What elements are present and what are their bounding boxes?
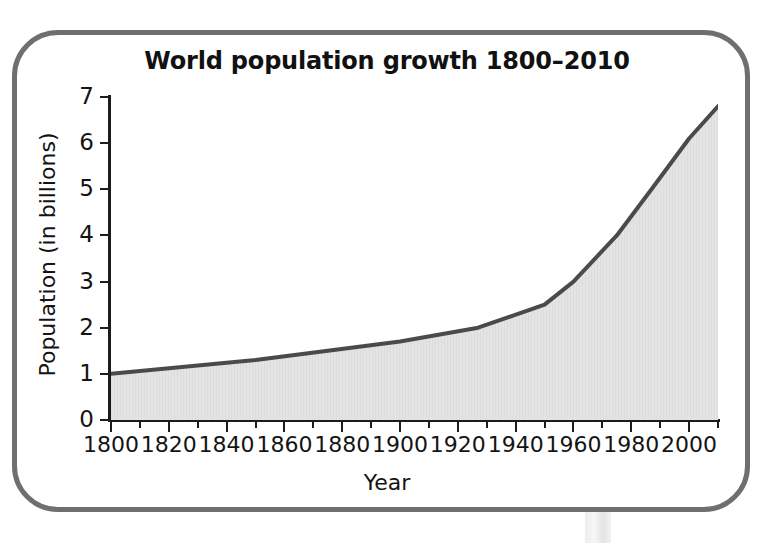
x-axis-tick (226, 421, 228, 432)
x-axis-tick (399, 421, 401, 432)
x-axis-tick (428, 421, 430, 428)
y-axis-tick (100, 188, 109, 190)
x-axis-tick (572, 421, 574, 432)
x-axis-tick-label: 2000 (654, 434, 724, 456)
x-axis-tick (370, 421, 372, 428)
y-axis-tick-label: 6 (60, 131, 94, 154)
y-axis-tick-label: 2 (60, 316, 94, 339)
x-axis-tick (717, 421, 719, 428)
x-axis-title: Year (0, 470, 774, 495)
y-axis-tick (100, 327, 109, 329)
y-axis-tick (100, 419, 109, 421)
y-axis-tick-label: 3 (60, 270, 94, 293)
y-axis-tick (100, 234, 109, 236)
series-area-path (111, 97, 718, 420)
x-axis-tick (341, 421, 343, 432)
plot-area (111, 97, 718, 420)
x-axis-tick (139, 421, 141, 428)
x-axis-tick (688, 421, 690, 432)
y-axis-tick-label: 1 (60, 362, 94, 385)
x-axis-tick (544, 421, 546, 428)
screenshot-root: World population growth 1800–2010 012345… (0, 0, 774, 543)
x-axis-tick (630, 421, 632, 432)
y-axis-title: Population (in billions) (35, 130, 60, 380)
x-axis-tick (515, 421, 517, 432)
x-axis-tick (197, 421, 199, 428)
y-axis-tick (100, 373, 109, 375)
y-axis-tick (100, 96, 109, 98)
x-axis-tick (283, 421, 285, 432)
x-axis-tick (255, 421, 257, 428)
y-axis-tick-label: 0 (60, 408, 94, 431)
y-axis-tick (100, 142, 109, 144)
y-axis-tick (100, 281, 109, 283)
y-axis-tick-label: 4 (60, 223, 94, 246)
x-axis-tick (312, 421, 314, 428)
population-area-chart: World population growth 1800–2010 012345… (0, 0, 774, 543)
x-axis-tick (659, 421, 661, 428)
y-axis-tick-label: 7 (60, 85, 94, 108)
x-axis-tick (457, 421, 459, 432)
x-axis-tick (168, 421, 170, 432)
x-axis-tick (486, 421, 488, 428)
chart-title: World population growth 1800–2010 (0, 47, 774, 75)
y-axis-tick-label: 5 (60, 177, 94, 200)
x-axis-tick (601, 421, 603, 428)
x-axis-tick (110, 421, 112, 432)
